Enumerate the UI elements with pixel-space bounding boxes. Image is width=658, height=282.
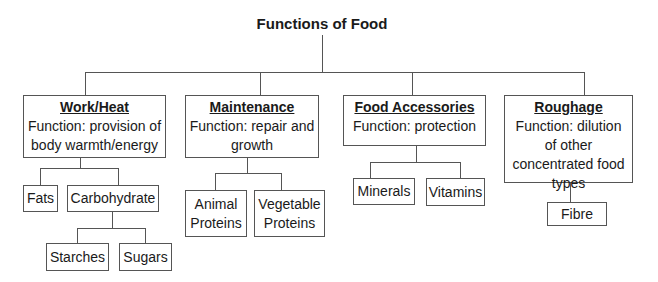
connector: [215, 173, 282, 174]
connector: [584, 72, 585, 95]
node-label: Minerals: [358, 182, 411, 201]
connector: [215, 173, 216, 190]
node-sugars: Sugars: [119, 243, 172, 271]
connector: [112, 212, 113, 228]
node-minerals: Minerals: [353, 178, 415, 205]
connector: [247, 158, 248, 173]
connector: [260, 72, 261, 95]
category-work-heat: Work/Heat Function: provision of body wa…: [23, 95, 166, 158]
connector: [80, 158, 81, 168]
category-function: Function: dilution of other concentrated…: [509, 117, 628, 193]
category-function: Function: repair and growth: [186, 117, 318, 155]
node-label: Animal Proteins: [186, 195, 246, 233]
category-heading: Work/Heat: [24, 98, 165, 117]
node-starches: Starches: [46, 243, 109, 271]
node-label: Vegetable Proteins: [255, 195, 324, 233]
category-heading: Maintenance: [186, 98, 318, 117]
node-animal-proteins: Animal Proteins: [185, 190, 247, 237]
connector: [416, 146, 417, 162]
node-vegetable-proteins: Vegetable Proteins: [254, 190, 325, 237]
connector: [85, 72, 86, 95]
connector: [460, 162, 461, 178]
connector: [570, 183, 571, 202]
connector: [40, 168, 41, 185]
category-maintenance: Maintenance Function: repair and growth: [185, 95, 319, 158]
connector: [77, 228, 78, 243]
category-roughage: Roughage Function: dilution of other con…: [504, 95, 633, 183]
connector: [281, 173, 282, 190]
node-label: Fibre: [561, 205, 593, 224]
node-label: Sugars: [123, 248, 167, 267]
connector: [85, 72, 585, 73]
connector: [370, 162, 371, 178]
node-label: Fats: [27, 189, 54, 208]
connector: [322, 35, 323, 72]
connector: [118, 168, 119, 185]
connector: [77, 228, 146, 229]
connector: [412, 72, 413, 95]
connector: [370, 162, 461, 163]
category-food-accessories: Food Accessories Function: protection: [343, 95, 486, 146]
category-heading: Roughage: [509, 98, 628, 117]
node-carbohydrate: Carbohydrate: [67, 185, 159, 212]
node-label: Starches: [50, 248, 105, 267]
node-fats: Fats: [23, 185, 58, 212]
node-fibre: Fibre: [547, 202, 607, 226]
category-function: Function: protection: [344, 117, 485, 136]
diagram-title: Functions of Food: [222, 15, 422, 32]
node-label: Carbohydrate: [71, 189, 156, 208]
node-vitamins: Vitamins: [426, 178, 485, 206]
category-function: Function: provision of body warmth/energ…: [24, 117, 165, 155]
connector: [145, 228, 146, 243]
node-label: Vitamins: [429, 183, 482, 202]
category-heading: Food Accessories: [344, 98, 485, 117]
connector: [40, 168, 119, 169]
